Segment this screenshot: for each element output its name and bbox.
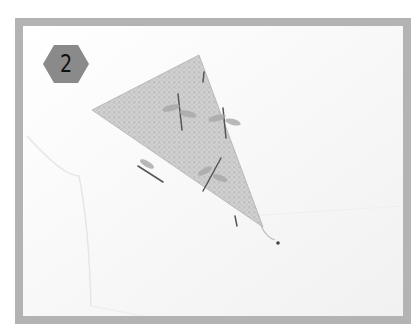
step-badge: 2 — [43, 45, 89, 83]
instruction-frame: 2 — [15, 18, 411, 324]
step-number: 2 — [48, 45, 85, 83]
